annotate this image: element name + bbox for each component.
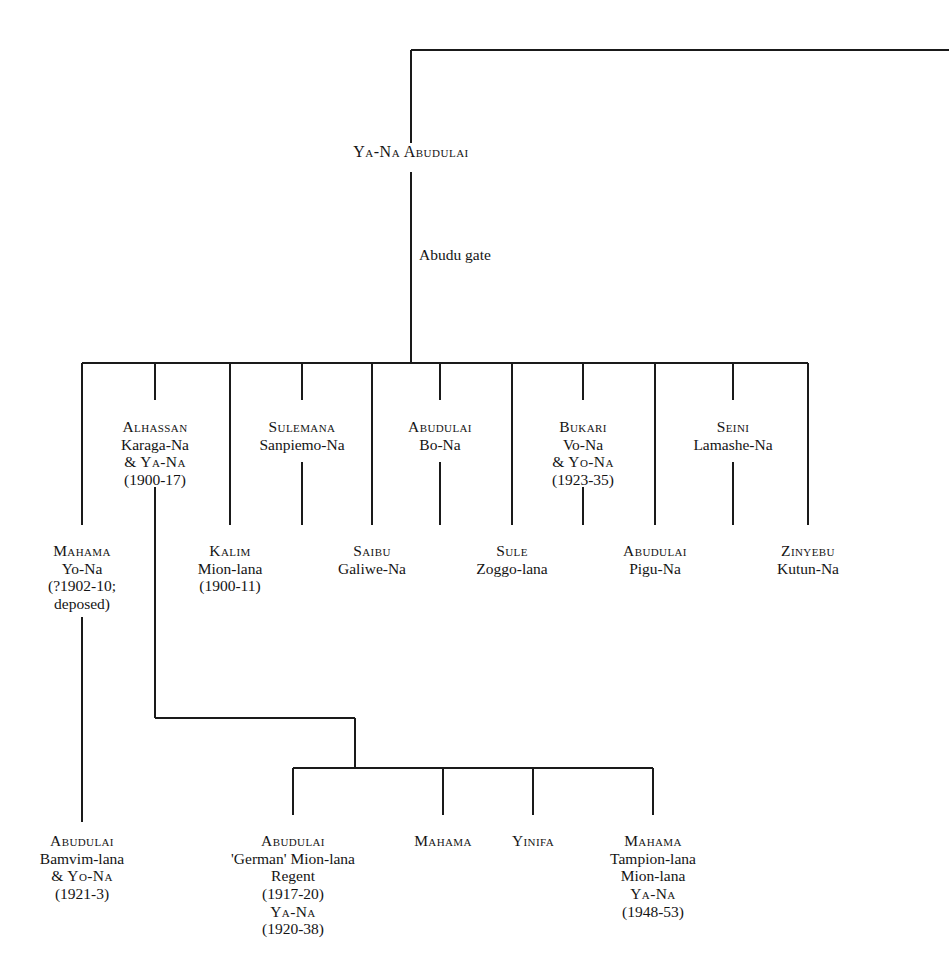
node-text-block: MahamaTampion-lanaMion-lanaYa-Na(1948-53… [513,832,793,920]
node-text-block: SeiniLamashe-Na [593,418,873,453]
node-line: Regent [153,867,433,885]
node-text-block: ZinyebuKutun-Na [668,542,948,577]
node-line: Ya-Na [153,903,433,921]
node-line: Ya-Na [513,885,793,903]
node-line: Mion-lana [513,867,793,885]
node-line: & Yo-Na [443,453,723,471]
node-line: (1920-38) [153,920,433,938]
node-line: deposed) [0,595,222,613]
node-line: Kutun-Na [668,560,948,578]
node-line: Seini [593,418,873,436]
node-line: (1900-17) [15,471,295,489]
node-ya-na-abudulai[interactable]: Ya-Na Abudulai [0,143,822,161]
node-line: Mahama [513,832,793,850]
node-line: & Ya-Na [15,453,295,471]
genealogy-chart: Ya-Na Abudulai Abudu gate AlhassanKaraga… [0,0,949,973]
node-line: (1923-35) [443,471,723,489]
node-line: (1917-20) [153,885,433,903]
node-line: (1948-53) [513,903,793,921]
node-line: Zinyebu [668,542,948,560]
node-line: (1900-11) [90,577,370,595]
gate-label: Abudu gate [419,246,491,264]
node-line: Tampion-lana [513,850,793,868]
node-line: Lamashe-Na [593,436,873,454]
node-line: 'German' Mion-lana [153,850,433,868]
